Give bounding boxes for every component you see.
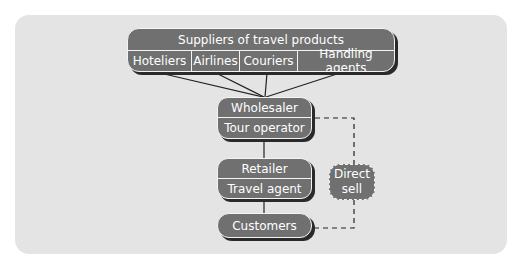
wholesaler-box: Wholesaler Tour operator	[217, 97, 312, 139]
supplier-couriers: Couriers	[239, 51, 297, 71]
direct-sell-box: Direct sell	[329, 164, 375, 200]
retailer-label: Retailer	[218, 159, 311, 178]
customers-box: Customers	[217, 213, 312, 238]
tour-operator-label: Tour operator	[218, 117, 311, 138]
retailer-box: Retailer Travel agent	[217, 158, 312, 199]
suppliers-box: Suppliers of travel products Hoteliers A…	[127, 28, 395, 72]
supplier-airlines: Airlines	[191, 51, 239, 71]
travel-agent-label: Travel agent	[218, 178, 311, 198]
direct-sell-line2: sell	[342, 182, 362, 197]
wholesaler-label: Wholesaler	[218, 98, 311, 117]
supplier-handling-agents: Handling agents	[297, 51, 394, 71]
supplier-hoteliers: Hoteliers	[128, 51, 191, 71]
direct-sell-line1: Direct	[334, 167, 370, 182]
